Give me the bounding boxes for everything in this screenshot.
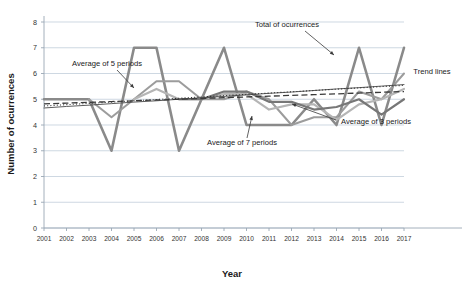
annotation-label-total: Total of ocurrences — [255, 20, 319, 29]
y-tick-label: 8 — [33, 18, 37, 27]
x-axis-title: Year — [222, 268, 242, 279]
y-tick-label: 7 — [33, 43, 37, 52]
x-tick-label: 2005 — [127, 235, 142, 242]
x-tick-label: 2009 — [217, 235, 232, 242]
y-tick-label: 0 — [33, 224, 37, 233]
y-tick-label: 1 — [33, 198, 37, 207]
x-tick-label: 2016 — [374, 235, 389, 242]
x-tick-label: 2017 — [397, 235, 412, 242]
y-tick-label: 4 — [33, 121, 37, 130]
x-tick-label: 2011 — [262, 235, 277, 242]
x-tick-label: 2012 — [284, 235, 299, 242]
annotation-label-avg3: Average of 3 periods — [341, 117, 411, 126]
y-tick-label: 3 — [33, 146, 37, 155]
x-tick-label: 2003 — [82, 235, 97, 242]
x-tick-label: 2013 — [307, 235, 322, 242]
annotation-label-avg7: Average of 7 periods — [207, 138, 277, 147]
chart-container: 012345678 200120022003200420052006200720… — [0, 0, 464, 285]
annotation-label-avg5: Average of 5 periods — [72, 59, 142, 68]
y-axis-title: Number of ocurrences — [5, 73, 16, 174]
x-tick-label: 2002 — [59, 235, 74, 242]
x-tick-label: 2007 — [172, 235, 187, 242]
x-tick-label: 2006 — [149, 235, 164, 242]
y-tick-label: 6 — [33, 69, 37, 78]
line-chart: 012345678 200120022003200420052006200720… — [0, 0, 464, 285]
annotation-label-trend: Trend lines — [413, 67, 450, 76]
x-tick-label: 2014 — [329, 235, 344, 242]
x-tick-label: 2004 — [104, 235, 119, 242]
x-tick-label: 2015 — [352, 235, 367, 242]
x-tick-label: 2008 — [194, 235, 209, 242]
y-tick-label: 2 — [33, 172, 37, 181]
y-tick-label: 5 — [33, 95, 37, 104]
x-tick-label: 2001 — [37, 235, 52, 242]
x-tick-label: 2010 — [239, 235, 254, 242]
